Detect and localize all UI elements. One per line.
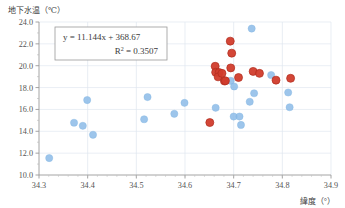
y-tick-label: 10.0	[19, 171, 33, 180]
plot-canvas: 10.012.014.016.018.020.022.024.034.334.4…	[0, 0, 345, 208]
data-point	[228, 49, 236, 57]
data-point	[235, 74, 243, 82]
data-point	[287, 74, 295, 82]
x-tick-label: 34.6	[178, 181, 192, 190]
y-tick-label: 18.0	[19, 84, 33, 93]
data-point	[141, 116, 148, 123]
x-tick-label: 34.7	[227, 181, 241, 190]
data-point	[221, 77, 229, 85]
data-point	[272, 76, 280, 84]
x-tick-label: 34.4	[81, 181, 95, 190]
data-point	[226, 37, 234, 45]
data-point	[237, 121, 244, 128]
regression-equation-text: y = 11.144x + 368.67	[63, 32, 141, 42]
data-point	[206, 119, 214, 127]
scatter-chart: 地下水温（℃） 10.012.014.016.018.020.022.024.0…	[0, 0, 345, 208]
y-tick-label: 12.0	[19, 149, 33, 158]
x-tick-label: 34.9	[324, 181, 338, 190]
x-tick-label: 34.3	[32, 181, 46, 190]
y-tick-label: 14.0	[19, 127, 33, 136]
data-point	[246, 98, 253, 105]
x-tick-label: 34.5	[129, 181, 143, 190]
data-point	[89, 131, 96, 138]
y-tick-label: 20.0	[19, 62, 33, 71]
data-point	[181, 99, 188, 106]
equation-annotation: y = 11.144x + 368.67R2 = 0.3507	[55, 27, 167, 60]
data-point	[227, 64, 235, 72]
data-point	[218, 69, 226, 77]
data-point	[84, 96, 91, 103]
data-point	[171, 110, 178, 117]
x-axis-label: 緯度（°）	[300, 195, 335, 206]
data-point	[231, 83, 238, 90]
y-tick-label: 22.0	[19, 40, 33, 49]
data-point	[236, 113, 243, 120]
data-point	[70, 119, 77, 126]
data-point	[144, 93, 151, 100]
data-point	[251, 90, 258, 97]
data-point	[255, 69, 263, 77]
data-point	[46, 154, 53, 161]
data-point	[212, 104, 219, 111]
x-tick-label: 34.8	[275, 181, 289, 190]
y-tick-label: 24.0	[19, 18, 33, 27]
data-point	[285, 89, 292, 96]
data-point	[286, 104, 293, 111]
data-point	[79, 122, 86, 129]
data-point	[248, 25, 255, 32]
y-tick-label: 16.0	[19, 105, 33, 114]
